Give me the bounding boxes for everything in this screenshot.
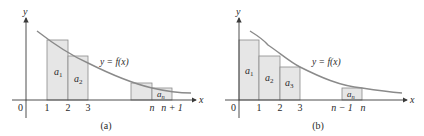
tick-2: 2 (278, 102, 283, 113)
y-axis-label: y (22, 6, 28, 17)
tick-n-plus-1: n + 1 (161, 102, 183, 113)
caption-a: (a) (100, 120, 111, 132)
tick-3: 3 (298, 102, 303, 113)
x-axis-label: x (409, 94, 415, 105)
tick-n: n (361, 102, 366, 113)
tick-1: 1 (257, 102, 262, 113)
tick-n-minus-1: n − 1 (331, 102, 353, 113)
curve-label: y = f(x) (311, 57, 341, 68)
tick-1: 1 (45, 102, 50, 113)
origin-label: 0 (231, 102, 236, 113)
panel-a: y x 0 1 2 3 n n + 1 y = f(x) a1 a2 an (a… (12, 6, 204, 132)
origin-label: 0 (18, 102, 23, 113)
integral-test-diagram: y x 0 1 2 3 n n + 1 y = f(x) a1 a2 an (a… (0, 0, 424, 136)
tick-3: 3 (86, 102, 91, 113)
panel-b: y x 0 1 2 3 n − 1 n y = f(x) a1 a2 a3 an… (225, 6, 415, 132)
tick-n: n (150, 102, 155, 113)
tick-2: 2 (66, 102, 71, 113)
y-axis-label: y (235, 6, 241, 17)
x-axis-label: x (198, 94, 204, 105)
caption-b: (b) (312, 120, 324, 132)
curve-label: y = f(x) (99, 57, 129, 68)
